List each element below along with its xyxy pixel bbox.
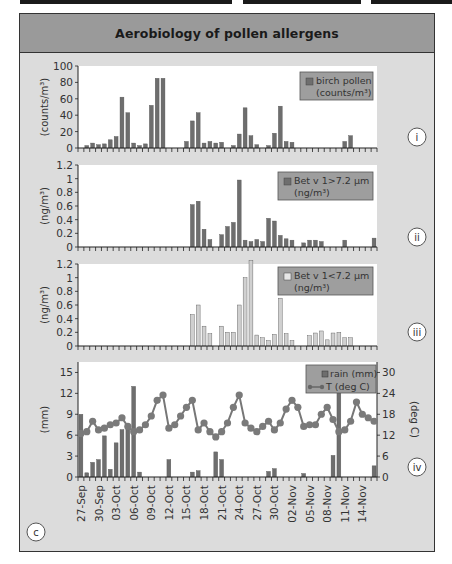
y-tick-label: 9 xyxy=(66,408,73,420)
bar xyxy=(114,443,118,477)
y-tick-label: 0.8 xyxy=(56,186,73,198)
bar xyxy=(226,332,230,346)
temperature-point xyxy=(353,398,360,405)
temperature-point xyxy=(148,412,155,419)
charts-canvas: 020406080100(counts/m³)ibirch pollen(cou… xyxy=(0,0,452,564)
bar xyxy=(120,430,124,477)
bar xyxy=(308,240,312,247)
x-tick-label: 06-Oct xyxy=(128,485,140,521)
y-tick-label: 1 xyxy=(66,272,73,284)
x-tick-label: 27-Sep xyxy=(75,485,87,522)
bar xyxy=(237,305,241,346)
legend-label-units: (ng/m³) xyxy=(294,187,330,198)
bar xyxy=(349,136,353,148)
temperature-point xyxy=(259,423,266,430)
y-tick-label: 12 xyxy=(60,387,73,399)
y-right-tick-label: 18 xyxy=(382,408,395,420)
temperature-point xyxy=(159,392,166,399)
bar xyxy=(108,469,112,477)
bar xyxy=(243,108,247,148)
bar xyxy=(190,205,194,247)
y-tick-label: 1.2 xyxy=(56,159,73,171)
panel-marker-label: iii xyxy=(413,327,421,338)
bar xyxy=(91,462,95,477)
y-tick-label: 3 xyxy=(66,450,73,462)
bar xyxy=(290,341,294,346)
panel-i: 020406080100(counts/m³)ibirch pollen(cou… xyxy=(39,60,426,154)
bar xyxy=(314,240,318,247)
bar xyxy=(220,142,224,148)
y-tick-label: 6 xyxy=(66,429,73,441)
bar xyxy=(343,240,347,247)
temperature-point xyxy=(241,419,248,426)
bar xyxy=(302,243,306,247)
x-tick-label: 24-Oct xyxy=(233,485,245,521)
bar xyxy=(261,338,265,346)
legend-label: Bet v 1>7.2 µm xyxy=(294,175,369,186)
x-tick-label: 03-Oct xyxy=(110,485,122,521)
bar xyxy=(102,144,106,148)
bar xyxy=(108,140,112,148)
bar xyxy=(272,469,276,477)
bar xyxy=(284,334,288,346)
y-tick-label: 15 xyxy=(60,366,73,378)
y-tick-label: 40 xyxy=(60,109,73,121)
temperature-point xyxy=(200,419,207,426)
temperature-point xyxy=(347,418,354,425)
x-tick-label: 11-Nov xyxy=(339,485,351,523)
legend-label: birch pollen xyxy=(316,75,372,86)
bar xyxy=(132,143,136,148)
bar xyxy=(196,305,200,346)
bar xyxy=(343,141,347,148)
temperature-point xyxy=(83,428,90,435)
temperature-point xyxy=(142,421,149,428)
temperature-point xyxy=(329,416,336,423)
bar xyxy=(214,143,218,148)
bar xyxy=(319,331,323,346)
temperature-point xyxy=(283,405,290,412)
bar xyxy=(91,143,95,148)
bar xyxy=(237,134,241,148)
y-tick-label: 1 xyxy=(66,173,73,185)
bar xyxy=(272,221,276,247)
y-tick-label: 0.4 xyxy=(56,313,73,325)
temperature-point xyxy=(224,419,231,426)
panel-iv: 03691215(mm)iv0612182430(deg C)rain (mm)… xyxy=(39,362,426,483)
panel-marker-label: iv xyxy=(413,462,422,473)
legend-label-rain: rain (mm) xyxy=(330,368,377,379)
bar xyxy=(202,326,206,346)
bar xyxy=(79,414,83,477)
legend-swatch-rain xyxy=(322,371,328,377)
legend-label: Bet v 1<7.2 µm xyxy=(294,270,369,281)
legend-label-units: (counts/m³) xyxy=(316,87,371,98)
temperature-point xyxy=(113,419,120,426)
bar xyxy=(284,239,288,247)
temperature-point xyxy=(177,412,184,419)
panel-ii: 00.20.40.60.811.2(ng/m³)iiBet v 1>7.2 µm… xyxy=(39,159,426,253)
temperature-point xyxy=(324,404,331,411)
x-axis-labels: 27-Sep30-Sep03-Oct06-Oct09-Oct12-Oct15-O… xyxy=(75,485,368,523)
bar xyxy=(167,460,171,477)
temperature-point xyxy=(195,426,202,433)
x-tick-label: 14-Nov xyxy=(356,485,368,523)
temperature-point xyxy=(89,418,96,425)
temperature-point xyxy=(370,418,377,425)
bar xyxy=(255,335,259,346)
bar xyxy=(196,471,200,477)
bar xyxy=(208,239,212,247)
y-tick-label: 0.2 xyxy=(56,326,73,338)
y-right-tick-label: 12 xyxy=(382,429,395,441)
bar xyxy=(331,333,335,346)
temperature-point xyxy=(253,428,260,435)
y-right-axis-label: (deg C) xyxy=(409,401,420,438)
legend-swatch xyxy=(284,273,291,280)
bar xyxy=(155,78,159,148)
legend-swatch xyxy=(284,178,291,185)
temperature-point xyxy=(206,428,213,435)
bar xyxy=(278,298,282,346)
y-axis-label: (counts/m³) xyxy=(39,78,50,136)
bar xyxy=(249,136,253,148)
bar xyxy=(185,141,189,148)
bar xyxy=(226,227,230,248)
bar xyxy=(190,121,194,148)
